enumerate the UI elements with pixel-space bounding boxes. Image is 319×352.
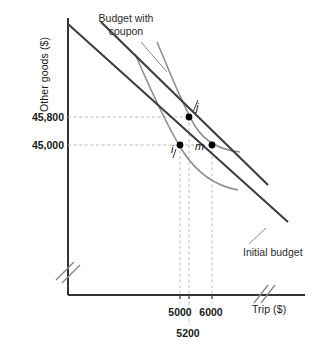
indifference-curve-high — [157, 42, 240, 152]
budget-line-with-coupon — [101, 22, 268, 185]
y-axis-title: Other goods ($) — [38, 37, 50, 112]
point-label-j: j — [196, 101, 198, 114]
data-point-m — [209, 142, 216, 149]
annotation-coupon-line1: Budget with — [99, 12, 154, 24]
point-label-m: m — [195, 140, 204, 153]
x-tick-label-5200: 5200 — [166, 327, 210, 339]
annotation-initial-budget: Initial budget — [243, 246, 303, 258]
annotation-budget-with-coupon: Budget withcoupon — [83, 12, 169, 38]
guide-lines — [68, 117, 212, 325]
y-tick-label-45000: 45,000 — [6, 139, 64, 151]
x-axis-title: Trip ($) — [252, 303, 286, 315]
y-tick-label-45800: 45,800 — [6, 111, 64, 123]
point-label-i: i — [171, 143, 173, 156]
data-point-i — [177, 142, 184, 149]
budget-line-initial — [68, 24, 288, 222]
x-tick-label-6000: 6000 — [189, 306, 233, 318]
leader-line-initial — [249, 228, 266, 244]
annotation-coupon-line2: coupon — [109, 25, 143, 37]
data-point-j — [186, 114, 193, 121]
indifference-curve-low — [136, 56, 238, 190]
budget-constraint-figure: Other goods ($) Trip ($) 45,800 45,000 5… — [0, 0, 319, 352]
